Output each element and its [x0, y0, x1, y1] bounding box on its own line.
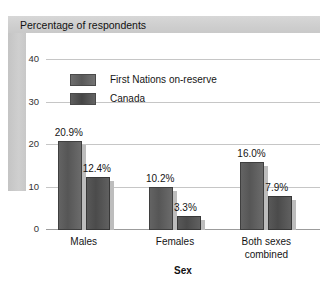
x-axis-category-label: Both sexes combined: [221, 236, 311, 261]
legend-swatch-icon-canada: [70, 93, 96, 105]
y-axis-tick-label: 20: [28, 139, 39, 149]
bar-shadow: [201, 220, 205, 230]
bar[interactable]: [240, 162, 264, 230]
bar-value-label: 20.9%: [55, 127, 83, 138]
legend-item-canada: Canada: [70, 91, 270, 110]
left-grey-band: [8, 16, 26, 191]
legend-label-first-nations: First Nations on-reserve: [110, 72, 217, 88]
bar-value-label: 7.9%: [265, 182, 288, 193]
x-axis-category-label: Males: [39, 236, 129, 249]
legend-label-canada: Canada: [110, 91, 145, 107]
y-axis-tick-label: 40: [28, 54, 39, 64]
bar-chart-figure: Percentage of respondents 01020304020.9%…: [0, 0, 334, 285]
chart-title-bar: Percentage of respondents: [8, 16, 320, 33]
bar[interactable]: [58, 141, 82, 230]
x-axis-category-label: Females: [130, 236, 220, 249]
gridline: 20: [46, 144, 320, 145]
bar[interactable]: [86, 177, 110, 230]
bar-value-label: 16.0%: [237, 148, 265, 159]
bar-shadow: [110, 181, 114, 230]
bar[interactable]: [149, 187, 173, 230]
bar-shadow: [292, 200, 296, 230]
bar[interactable]: [177, 216, 201, 230]
bar[interactable]: [268, 196, 292, 230]
chart-title: Percentage of respondents: [20, 17, 146, 33]
y-axis-tick-label: 10: [28, 182, 39, 192]
legend-item-first-nations: First Nations on-reserve: [70, 72, 270, 91]
x-axis-title: Sex: [46, 265, 320, 277]
chart-legend: First Nations on-reserve Canada: [70, 72, 270, 110]
y-axis-tick-label: 0: [34, 224, 39, 234]
legend-swatch-icon-first-nations: [70, 74, 96, 86]
bar-value-label: 10.2%: [146, 173, 174, 184]
gridline: 40: [46, 59, 320, 60]
bar-value-label: 3.3%: [174, 202, 197, 213]
y-axis-tick-label: 30: [28, 97, 39, 107]
bar-value-label: 12.4%: [83, 163, 111, 174]
